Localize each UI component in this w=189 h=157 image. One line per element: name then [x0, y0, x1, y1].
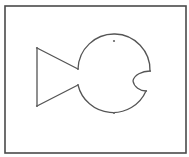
node-marker[interactable] [149, 70, 151, 72]
node-marker[interactable] [113, 40, 115, 42]
node-marker[interactable] [36, 47, 38, 49]
fish-diagram [0, 0, 189, 157]
drawing-canvas [0, 0, 189, 157]
node-marker[interactable] [77, 68, 79, 70]
node-marker[interactable] [113, 112, 115, 114]
node-marker[interactable] [77, 84, 79, 86]
node-marker[interactable] [145, 90, 147, 92]
node-marker[interactable] [36, 105, 38, 107]
frame-border [5, 6, 186, 153]
